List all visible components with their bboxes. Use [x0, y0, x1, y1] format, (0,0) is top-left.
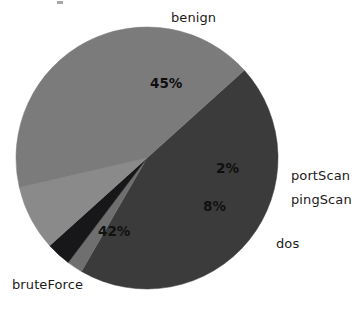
slice-label-benign: benign	[171, 10, 216, 25]
slice-value-dos: 8%	[203, 199, 226, 214]
slice-label-pingscan: pingScan	[291, 192, 352, 207]
slice-label-dos: dos	[276, 236, 299, 251]
slice-label-portscan: portScan	[291, 168, 350, 183]
slice-value-benign: 45%	[150, 76, 182, 91]
slice-value-portscan: 2%	[216, 161, 239, 176]
slice-value-bruteforce: 42%	[98, 224, 130, 239]
pie-slice-group	[16, 27, 278, 289]
pie-chart-canvas	[0, 0, 364, 316]
slice-label-bruteforce: bruteForce	[12, 277, 83, 292]
pie-chart: benign portScan pingScan dos bruteForce …	[0, 0, 364, 316]
